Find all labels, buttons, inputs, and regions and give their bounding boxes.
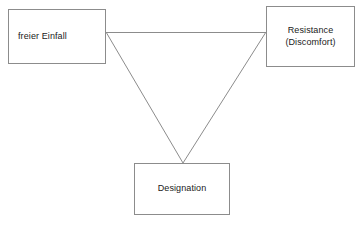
node-freier-einfall-label: freier Einfall [9,31,105,43]
node-resistance-label: Resistance (Discomfort) [267,25,354,48]
node-designation-label: Designation [135,183,229,195]
node-designation[interactable]: Designation [134,163,230,215]
node-resistance[interactable]: Resistance (Discomfort) [266,6,355,67]
node-freier-einfall[interactable]: freier Einfall [8,9,106,64]
diagram-canvas: freier Einfall Resistance (Discomfort) D… [0,0,363,226]
edge-resistance-to-designation [183,32,266,163]
edge-freier-einfall-to-designation [106,32,183,163]
